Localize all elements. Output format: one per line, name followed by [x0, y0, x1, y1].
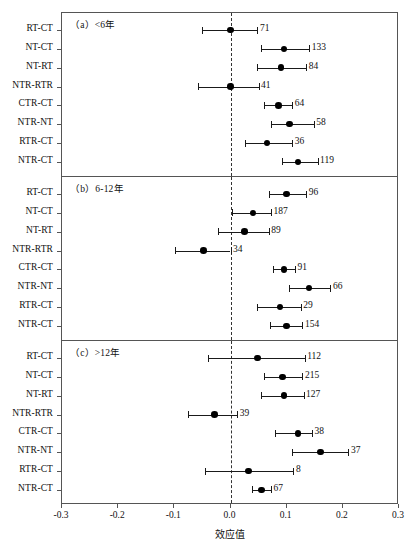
- row-category-label: NTR-CT: [18, 319, 53, 329]
- sample-count-label: 41: [259, 80, 271, 90]
- sample-count-label: 89: [269, 225, 281, 235]
- row-category-label: NTR-CT: [18, 483, 53, 493]
- x-axis-tick-label: 0.1: [280, 510, 292, 520]
- y-axis-tick: [57, 307, 62, 308]
- effect-size-point: [211, 411, 218, 418]
- effect-size-point: [279, 374, 286, 381]
- zero-reference-line-a: [231, 13, 232, 176]
- y-axis-tick: [57, 87, 62, 88]
- ci-cap-lower: [282, 158, 283, 165]
- sample-count-label: 67: [271, 483, 283, 493]
- sample-count-label: 119: [318, 155, 334, 165]
- y-axis-tick: [57, 452, 62, 453]
- ci-cap-lower: [289, 285, 290, 292]
- panel-c: （c）>12年 RT-CT112NT-CT215NT-RT127NTR-RTR3…: [61, 340, 398, 504]
- effect-size-point: [281, 266, 288, 273]
- effect-size-point: [277, 304, 284, 311]
- confidence-interval-bar: [275, 433, 312, 434]
- y-axis-tick: [57, 251, 62, 252]
- sample-count-label: 66: [330, 281, 342, 291]
- sample-count-label: 127: [304, 389, 321, 399]
- sample-count-label: 29: [301, 300, 313, 310]
- x-axis-tick-label: -0.1: [166, 510, 181, 520]
- x-axis-tick: [286, 504, 287, 508]
- sample-count-label: 37: [348, 445, 360, 455]
- sample-count-label: 112: [305, 351, 321, 361]
- x-axis-title: 效应值: [61, 526, 398, 541]
- ci-cap-lower: [275, 430, 276, 437]
- sample-count-label: 58: [314, 117, 326, 127]
- ci-cap-lower: [292, 449, 293, 456]
- effect-size-point: [286, 121, 293, 128]
- ci-cap-lower: [264, 102, 265, 109]
- row-category-label: RTR-CT: [19, 464, 53, 474]
- ci-cap-lower: [257, 64, 258, 71]
- sample-count-label: 64: [292, 98, 304, 108]
- row-category-label: RT-CT: [27, 187, 54, 197]
- ci-cap-lower: [264, 373, 265, 380]
- ci-cap-lower: [269, 191, 270, 198]
- sample-count-label: 84: [306, 61, 318, 71]
- effect-size-point: [264, 140, 271, 147]
- y-axis-tick: [57, 49, 62, 50]
- effect-size-point: [258, 487, 265, 494]
- effect-size-point: [306, 285, 313, 292]
- y-axis-tick: [57, 396, 62, 397]
- x-axis-tick-label: -0.2: [110, 510, 125, 520]
- y-axis-tick: [57, 30, 62, 31]
- effect-size-point: [254, 355, 261, 362]
- y-axis-tick: [57, 471, 62, 472]
- effect-size-point: [295, 430, 302, 437]
- ci-cap-lower: [245, 140, 246, 147]
- ci-cap-lower: [198, 83, 199, 90]
- row-category-label: NTR-RTR: [12, 408, 53, 418]
- row-category-label: NT-RT: [26, 225, 53, 235]
- ci-cap-lower: [205, 468, 206, 475]
- sample-count-label: 187: [271, 206, 288, 216]
- sample-count-label: 133: [309, 42, 326, 52]
- sample-count-label: 39: [237, 408, 249, 418]
- x-axis-tick-label: 0.3: [392, 510, 404, 520]
- y-axis-tick: [57, 358, 62, 359]
- effect-size-point: [250, 210, 257, 217]
- ci-cap-lower: [273, 266, 274, 273]
- y-axis-tick: [57, 288, 62, 289]
- effect-size-point: [245, 468, 252, 475]
- row-category-label: NTR-NT: [18, 117, 53, 127]
- y-axis-tick: [57, 213, 62, 214]
- zero-reference-line-b: [231, 177, 232, 340]
- ci-cap-lower: [188, 411, 189, 418]
- x-axis-tick-label: 0.0: [224, 510, 236, 520]
- row-category-label: RT-CT: [27, 351, 54, 361]
- ci-cap-lower: [175, 247, 176, 254]
- ci-cap-lower: [261, 45, 262, 52]
- ci-cap-lower: [252, 486, 253, 493]
- effect-size-point: [281, 392, 288, 399]
- y-axis-tick: [57, 68, 62, 69]
- y-axis-tick: [57, 194, 62, 195]
- panel-a: （a）<6年 RT-CT71NT-CT133NT-RT84NTR-RTR41CT…: [61, 12, 398, 176]
- row-category-label: NTR-NT: [18, 445, 53, 455]
- x-axis-tick: [230, 504, 231, 508]
- effect-size-point: [227, 83, 234, 90]
- x-axis-tick: [398, 504, 399, 508]
- row-category-label: RT-CT: [27, 23, 54, 33]
- zero-reference-line-c: [231, 341, 232, 503]
- sample-count-label: 34: [231, 244, 243, 254]
- row-category-label: CTR-CT: [19, 98, 53, 108]
- row-category-label: NTR-RTR: [12, 244, 53, 254]
- y-axis-tick: [57, 433, 62, 434]
- effect-size-point: [200, 247, 207, 254]
- x-axis-tick: [342, 504, 343, 508]
- panel-c-label: （c）>12年: [70, 345, 120, 359]
- sample-count-label: 8: [293, 464, 300, 474]
- ci-cap-lower: [257, 304, 258, 311]
- effect-size-point: [283, 323, 290, 330]
- row-category-label: NT-RT: [26, 61, 53, 71]
- sample-count-label: 154: [302, 319, 319, 329]
- panel-b-label: （b）6-12年: [70, 181, 124, 195]
- ci-cap-lower: [270, 322, 271, 329]
- effect-size-point: [281, 46, 288, 53]
- row-category-label: NT-RT: [26, 389, 53, 399]
- x-axis: -0.3-0.2-0.10.00.10.20.3 效应值: [61, 504, 398, 544]
